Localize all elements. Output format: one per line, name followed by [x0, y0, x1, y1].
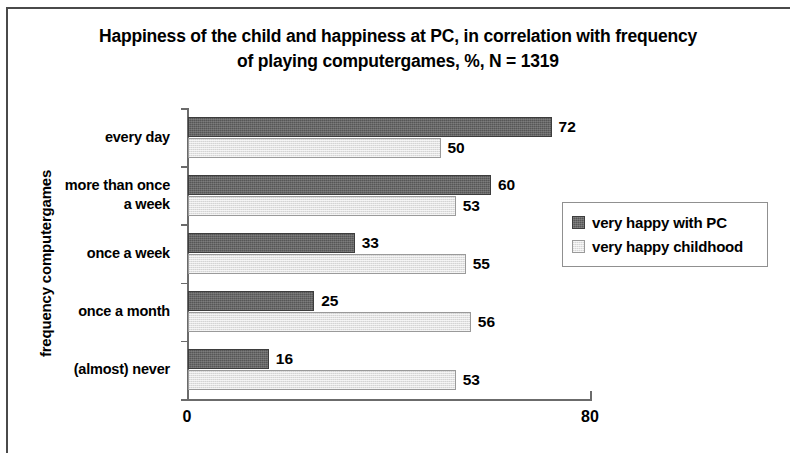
y-axis-tick-3 — [181, 341, 188, 343]
figure-frame-left-border — [6, 7, 8, 453]
bar-1-series-0[interactable] — [188, 175, 491, 195]
x-tick-label-0: 0 — [157, 408, 217, 426]
chart-legend: very happy with PC very happy childhood — [562, 202, 768, 267]
legend-item-very-happy-childhood: very happy childhood — [572, 234, 758, 258]
chart-title-line-1: Happiness of the child and happiness at … — [40, 24, 756, 49]
bar-value-2-series-1: 55 — [473, 254, 490, 274]
bar-group-3: once a month2556 — [188, 291, 592, 332]
bar-value-1-series-0: 60 — [498, 175, 515, 195]
y-axis-tick-1 — [181, 224, 188, 226]
bar-value-1-series-1: 53 — [463, 196, 480, 216]
bar-group-1: more than oncea week6053 — [188, 175, 592, 216]
y-axis-tick-2 — [181, 283, 188, 285]
bar-0-series-0[interactable] — [188, 117, 552, 137]
category-label-1-line-0: more than once — [0, 176, 170, 195]
legend-label-series-1: very happy childhood — [592, 238, 743, 255]
y-axis-tick-top — [181, 108, 188, 110]
bar-value-3-series-1: 56 — [478, 312, 495, 332]
category-label-2-line-0: once a week — [0, 244, 170, 263]
category-label-2: once a week — [0, 244, 170, 263]
bar-value-2-series-0: 33 — [362, 233, 379, 253]
legend-item-very-happy-with-pc: very happy with PC — [572, 210, 758, 234]
x-tick-label-80: 80 — [560, 408, 620, 426]
bar-value-4-series-0: 16 — [276, 349, 293, 369]
legend-swatch-icon-series-0 — [572, 216, 585, 229]
y-axis-tick-4 — [181, 399, 188, 401]
bar-3-series-0[interactable] — [188, 291, 314, 311]
x-axis-line — [187, 399, 592, 401]
bar-value-3-series-0: 25 — [321, 291, 338, 311]
category-label-3: once a month — [0, 302, 170, 321]
category-label-1-line-1: a week — [0, 195, 170, 214]
bar-group-0: every day7250 — [188, 117, 592, 158]
category-label-0-line-0: every day — [0, 128, 170, 147]
bar-4-series-1[interactable] — [188, 370, 456, 390]
bar-value-4-series-1: 53 — [463, 370, 480, 390]
chart-figure: Happiness of the child and happiness at … — [0, 0, 796, 453]
figure-frame-top-border — [6, 7, 790, 9]
bar-2-series-1[interactable] — [188, 254, 466, 274]
bar-1-series-1[interactable] — [188, 196, 456, 216]
legend-swatch-icon-series-1 — [572, 240, 585, 253]
bar-3-series-1[interactable] — [188, 312, 471, 332]
bar-2-series-0[interactable] — [188, 233, 355, 253]
bar-group-2: once a week3355 — [188, 233, 592, 274]
bar-value-0-series-1: 50 — [448, 138, 465, 158]
chart-title-line-2: of playing computergames, %, N = 1319 — [40, 49, 756, 74]
category-label-3-line-0: once a month — [0, 302, 170, 321]
category-label-4: (almost) never — [0, 360, 170, 379]
chart-title: Happiness of the child and happiness at … — [40, 24, 756, 74]
plot-area: every day7250more than oncea week6053onc… — [188, 108, 592, 399]
bar-4-series-0[interactable] — [188, 349, 269, 369]
bar-group-4: (almost) never1653 — [188, 349, 592, 390]
category-label-0: every day — [0, 128, 170, 147]
bar-value-0-series-0: 72 — [559, 117, 576, 137]
legend-label-series-0: very happy with PC — [592, 214, 727, 231]
category-label-4-line-0: (almost) never — [0, 360, 170, 379]
x-axis-end-cap — [590, 391, 592, 400]
category-label-1: more than oncea week — [0, 176, 170, 214]
y-axis-tick-0 — [181, 166, 188, 168]
bar-0-series-1[interactable] — [188, 138, 441, 158]
